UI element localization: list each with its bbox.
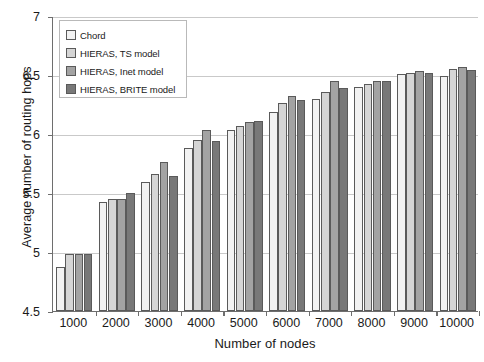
bar-group	[269, 17, 305, 311]
bar	[330, 81, 339, 311]
bar	[160, 162, 169, 311]
bar	[99, 202, 108, 311]
bar-group	[397, 17, 433, 311]
x-tick-label: 3000	[145, 316, 173, 330]
bar	[297, 100, 306, 311]
bar	[184, 148, 193, 311]
y-tick-label: 5.5	[23, 187, 40, 201]
bar	[65, 254, 74, 311]
legend-label: HIERAS, Inet model	[80, 66, 163, 77]
bar	[278, 103, 287, 311]
bar	[193, 140, 202, 311]
bar	[254, 121, 263, 311]
bar	[440, 76, 449, 311]
legend-swatch-icon	[66, 66, 76, 76]
bar-chart: Average number of routing hops 4.555.566…	[0, 0, 484, 362]
legend-label: HIERAS, BRITE model	[80, 84, 175, 95]
x-axis-title: Number of nodes	[52, 336, 478, 351]
bar	[397, 74, 406, 311]
bar	[373, 81, 382, 311]
x-tick-label: 8000	[358, 316, 386, 330]
bar	[364, 84, 373, 311]
x-tick-mark	[479, 311, 480, 316]
legend-swatch-icon	[66, 48, 76, 58]
x-tick-label: 1000	[59, 316, 87, 330]
bar	[467, 70, 476, 311]
bar	[126, 193, 135, 311]
bar-group	[184, 17, 220, 311]
x-tick-label: 10000	[439, 316, 474, 330]
bar-group	[312, 17, 348, 311]
legend-label: HIERAS, TS model	[80, 48, 160, 59]
legend-swatch-icon	[66, 30, 76, 40]
legend-item: HIERAS, Inet model	[66, 62, 186, 80]
y-tick-mark	[48, 312, 53, 313]
y-tick-label: 6.5	[23, 69, 40, 83]
bar	[236, 126, 245, 311]
x-tick-label: 5000	[230, 316, 258, 330]
bar	[169, 176, 178, 311]
bar	[245, 122, 254, 311]
bar	[212, 141, 221, 311]
x-axis-tick-labels: 1000200030004000500060007000800090001000…	[52, 316, 478, 334]
bar	[382, 81, 391, 311]
bar	[117, 199, 126, 311]
legend-item: HIERAS, BRITE model	[66, 80, 186, 98]
y-tick-label: 5	[33, 246, 40, 260]
bar	[227, 130, 236, 311]
legend-swatch-icon	[66, 84, 76, 94]
bar	[354, 87, 363, 311]
bar	[415, 71, 424, 311]
bar	[449, 69, 458, 311]
x-tick-label: 9000	[400, 316, 428, 330]
bar	[339, 88, 348, 311]
x-tick-label: 4000	[187, 316, 215, 330]
bar	[141, 182, 150, 311]
bar	[458, 67, 467, 311]
x-tick-label: 7000	[315, 316, 343, 330]
legend-label: Chord	[80, 30, 105, 41]
bar	[84, 254, 93, 311]
y-tick-label: 6	[33, 128, 40, 142]
bar	[269, 112, 278, 311]
legend-item: Chord	[66, 26, 186, 44]
bar	[56, 267, 65, 311]
legend-item: HIERAS, TS model	[66, 44, 186, 62]
bar	[321, 92, 330, 311]
bar-group	[440, 17, 476, 311]
y-tick-label: 4.5	[23, 305, 40, 319]
bar	[406, 73, 415, 311]
chart-legend: ChordHIERAS, TS modelHIERAS, Inet modelH…	[59, 20, 187, 98]
bar	[151, 174, 160, 311]
x-tick-label: 2000	[102, 316, 130, 330]
bar-group	[354, 17, 390, 311]
bar	[108, 199, 117, 311]
bar	[75, 254, 84, 311]
bar	[288, 96, 297, 311]
x-tick-label: 6000	[272, 316, 300, 330]
bar	[312, 99, 321, 311]
bar-group	[227, 17, 263, 311]
bar	[425, 73, 434, 311]
bar	[202, 130, 211, 311]
y-tick-label: 7	[33, 10, 40, 24]
